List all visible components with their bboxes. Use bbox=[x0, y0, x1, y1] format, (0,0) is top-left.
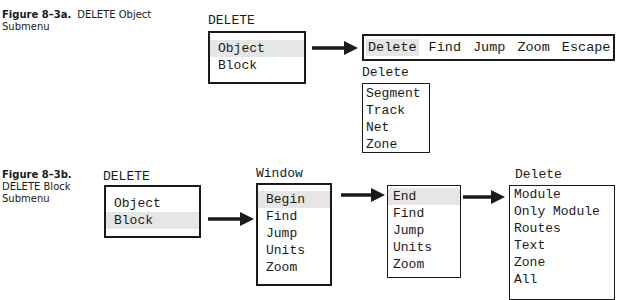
menu-item-block[interactable]: Block bbox=[106, 212, 199, 229]
figure-a-horizontal-menu: Delete Find Jump Zoom Escape bbox=[362, 34, 615, 61]
figure-a-number: Figure 8–3a. bbox=[2, 9, 71, 20]
delete-item-text[interactable]: Text bbox=[510, 237, 614, 254]
menu-item-object[interactable]: Object bbox=[106, 195, 199, 212]
hmenu-item-zoom[interactable]: Zoom bbox=[515, 39, 551, 56]
menu-item-block[interactable]: Block bbox=[210, 57, 304, 74]
submenu-item-zone[interactable]: Zone bbox=[363, 136, 429, 153]
figure-b-caption: Figure 8–3b. DELETE Block Submenu bbox=[2, 169, 78, 205]
window-item-units[interactable]: Units bbox=[258, 242, 330, 259]
submenu-item-segment[interactable]: Segment bbox=[363, 85, 429, 102]
window-item-find[interactable]: Find bbox=[258, 208, 330, 225]
arrow-icon bbox=[208, 211, 254, 227]
end-item-end[interactable]: End bbox=[388, 188, 460, 205]
hmenu-item-find[interactable]: Find bbox=[427, 39, 463, 56]
submenu-item-track[interactable]: Track bbox=[363, 102, 429, 119]
hmenu-item-jump[interactable]: Jump bbox=[471, 39, 507, 56]
figure-a-delete-submenu: Segment Track Net Zone bbox=[362, 83, 430, 153]
window-item-begin[interactable]: Begin bbox=[258, 191, 330, 208]
figure-b-delete-submenu: Module Only Module Routes Text Zone All bbox=[509, 185, 615, 300]
figure-a-caption: Figure 8–3a.DELETE Object Submenu bbox=[2, 9, 151, 33]
figure-a-title-line2: Submenu bbox=[2, 21, 50, 32]
figure-b-window-menu: Begin Find Jump Units Zoom bbox=[256, 183, 332, 286]
figure-a-submenu-title: Delete bbox=[362, 65, 409, 80]
end-item-zoom[interactable]: Zoom bbox=[388, 256, 460, 273]
delete-item-all[interactable]: All bbox=[510, 271, 614, 288]
figure-a-menu-title: DELETE bbox=[208, 13, 255, 28]
arrow-icon bbox=[463, 189, 505, 205]
delete-item-routes[interactable]: Routes bbox=[510, 220, 614, 237]
delete-item-zone[interactable]: Zone bbox=[510, 254, 614, 271]
figure-a-delete-menu: Object Block bbox=[208, 31, 306, 84]
arrow-icon bbox=[312, 40, 358, 56]
end-item-find[interactable]: Find bbox=[388, 205, 460, 222]
hmenu-item-delete[interactable]: Delete bbox=[366, 39, 419, 56]
figure-b-title: DELETE Block bbox=[2, 181, 71, 192]
window-item-jump[interactable]: Jump bbox=[258, 225, 330, 242]
figure-b-number: Figure 8–3b. bbox=[2, 169, 72, 180]
figure-b-menu-title: DELETE bbox=[103, 169, 150, 184]
window-item-zoom[interactable]: Zoom bbox=[258, 259, 330, 276]
end-item-units[interactable]: Units bbox=[388, 239, 460, 256]
end-item-jump[interactable]: Jump bbox=[388, 222, 460, 239]
delete-item-module[interactable]: Module bbox=[510, 186, 614, 203]
submenu-item-net[interactable]: Net bbox=[363, 119, 429, 136]
figure-b-window-title: Window bbox=[256, 166, 303, 181]
figure-b-end-menu: End Find Jump Units Zoom bbox=[387, 185, 461, 278]
hmenu-item-escape[interactable]: Escape bbox=[560, 39, 613, 56]
figure-b-title-line2: Submenu bbox=[2, 193, 50, 204]
menu-item-object[interactable]: Object bbox=[210, 40, 304, 57]
delete-item-only-module[interactable]: Only Module bbox=[510, 203, 614, 220]
arrow-icon bbox=[341, 187, 385, 203]
figure-b-delete-menu: Object Block bbox=[104, 185, 201, 238]
figure-a-title: DELETE Object bbox=[77, 9, 151, 20]
figure-b-delete-title: Delete bbox=[515, 167, 562, 182]
